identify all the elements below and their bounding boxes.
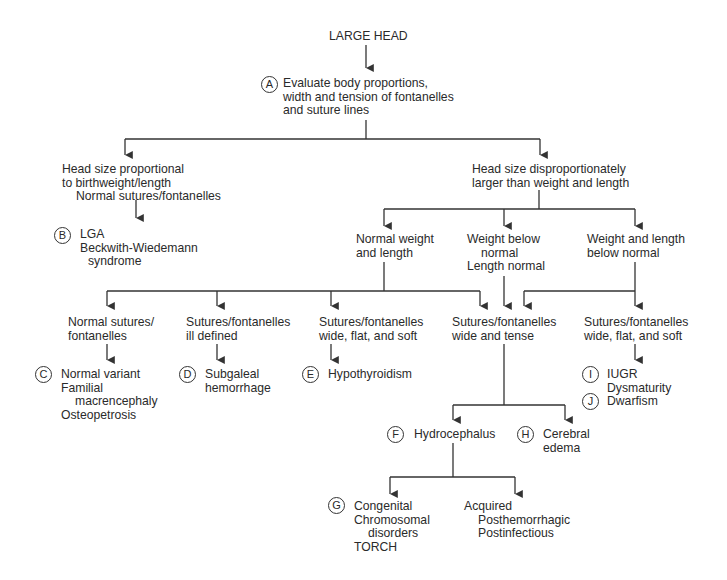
node-line: Sutures/fontanelles	[452, 316, 556, 330]
node-evaluate: Evaluate body proportions, width and ten…	[283, 77, 454, 118]
node-line: Dwarfism	[607, 395, 658, 409]
node-line: syndrome	[80, 255, 198, 269]
node-line: Dysmaturity	[607, 382, 671, 396]
node-line: width and tension of fontanelles	[283, 91, 454, 105]
title-large-head: LARGE HEAD	[329, 30, 408, 44]
badge-e-icon: E	[302, 366, 319, 383]
node-normal-weight: Normal weight and length	[356, 233, 434, 260]
node-line: Acquired	[464, 500, 570, 514]
node-line: fontanelles	[68, 330, 154, 344]
node-line: normal	[467, 247, 545, 261]
node-line: Chromosomal	[354, 514, 430, 528]
node-acquired: Acquired Posthemorrhagic Postinfectious	[464, 500, 570, 541]
node-line: Weight and length	[587, 233, 685, 247]
node-iugr: IUGR Dysmaturity	[607, 368, 671, 395]
node-line: Normal sutures/	[68, 316, 154, 330]
node-line: Congenital	[354, 500, 430, 514]
node-subgaleal: Subgaleal hemorrhage	[205, 368, 271, 395]
node-lga: LGA Beckwith-Wiedemann syndrome	[80, 228, 198, 269]
badge-f-icon: F	[387, 426, 404, 443]
node-line: larger than weight and length	[472, 177, 629, 191]
node-congenital: Congenital Chromosomal disorders TORCH	[354, 500, 430, 554]
node-line: Subgaleal	[205, 368, 271, 382]
node-wide-tense: Sutures/fontanelles wide and tense	[452, 316, 556, 343]
node-line: Normal variant	[61, 368, 158, 382]
badge-c-icon: C	[35, 366, 52, 383]
node-line: disorders	[354, 527, 430, 541]
node-cerebral-edema: Cerebral edema	[543, 428, 590, 455]
node-line: hemorrhage	[205, 382, 271, 396]
node-line: wide, flat, and soft	[319, 330, 423, 344]
badge-j-icon: J	[582, 393, 599, 410]
node-line: Normal sutures/fontanelles	[62, 190, 221, 204]
node-head-proportional: Head size proportional to birthweight/le…	[62, 163, 221, 204]
node-line: wide, flat, and soft	[584, 330, 688, 344]
node-normal-sutures: Normal sutures/ fontanelles	[68, 316, 154, 343]
node-hypothyroidism: Hypothyroidism	[328, 368, 412, 382]
node-dwarfism: Dwarfism	[607, 395, 658, 409]
node-line: Hypothyroidism	[328, 368, 412, 382]
node-line: Sutures/fontanelles	[186, 316, 290, 330]
badge-g-icon: G	[328, 497, 345, 514]
title-text: LARGE HEAD	[329, 30, 408, 44]
node-line: Posthemorrhagic	[464, 514, 570, 528]
node-hydrocephalus: Hydrocephalus	[414, 428, 495, 442]
node-wide-flat-soft-2: Sutures/fontanelles wide, flat, and soft	[584, 316, 688, 343]
node-line: macrencephaly	[61, 395, 158, 409]
node-line: Beckwith-Wiedemann	[80, 242, 198, 256]
badge-h-icon: H	[517, 426, 534, 443]
node-line: and suture lines	[283, 104, 454, 118]
badge-i-icon: I	[582, 366, 599, 383]
node-line: Sutures/fontanelles	[319, 316, 423, 330]
node-line: wide and tense	[452, 330, 556, 344]
node-line: TORCH	[354, 541, 430, 555]
node-line: Hydrocephalus	[414, 428, 495, 442]
node-line: Postinfectious	[464, 527, 570, 541]
node-head-disproportional: Head size disproportionately larger than…	[472, 163, 629, 190]
node-line: LGA	[80, 228, 198, 242]
node-line: ill defined	[186, 330, 290, 344]
node-line: and length	[356, 247, 434, 261]
node-line: Osteopetrosis	[61, 409, 158, 423]
node-line: Length normal	[467, 260, 545, 274]
node-line: Normal weight	[356, 233, 434, 247]
node-line: Head size proportional	[62, 163, 221, 177]
node-line: to birthweight/length	[62, 177, 221, 191]
node-wide-flat-soft-1: Sutures/fontanelles wide, flat, and soft	[319, 316, 423, 343]
node-line: Head size disproportionately	[472, 163, 629, 177]
badge-a-icon: A	[261, 76, 278, 93]
node-line: edema	[543, 442, 590, 456]
badge-b-icon: B	[54, 227, 71, 244]
node-line: below normal	[587, 247, 685, 261]
node-line: Familial	[61, 382, 158, 396]
node-line: Cerebral	[543, 428, 590, 442]
node-weight-below: Weight below normal Length normal	[467, 233, 545, 274]
node-line: Weight below	[467, 233, 545, 247]
badge-d-icon: D	[179, 366, 196, 383]
node-ill-defined: Sutures/fontanelles ill defined	[186, 316, 290, 343]
node-weight-length-below: Weight and length below normal	[587, 233, 685, 260]
node-line: IUGR	[607, 368, 671, 382]
node-line: Sutures/fontanelles	[584, 316, 688, 330]
node-line: Evaluate body proportions,	[283, 77, 454, 91]
node-normal-variant: Normal variant Familial macrencephaly Os…	[61, 368, 158, 422]
